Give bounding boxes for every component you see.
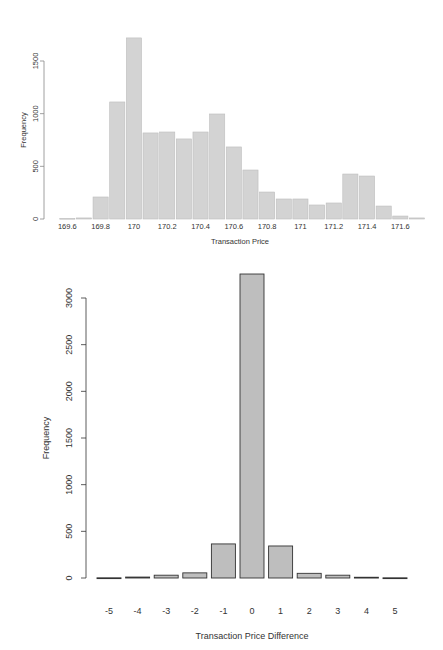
- histogram-bar: [143, 133, 158, 219]
- top-chart-svg: 050010001500169.6169.8170170.2170.4170.6…: [0, 0, 443, 250]
- x-tick-label: 170: [128, 222, 141, 231]
- histogram-bar: [310, 205, 325, 219]
- histogram-bar: [376, 206, 391, 219]
- bar: [211, 544, 235, 578]
- x-tick-label: 5: [392, 606, 397, 616]
- histogram-bar: [326, 203, 341, 219]
- y-tick-label: 500: [31, 160, 40, 173]
- y-tick-label: 1500: [31, 53, 40, 70]
- bar: [297, 573, 321, 578]
- x-tick-label: 2: [307, 606, 312, 616]
- bar: [240, 274, 264, 578]
- x-tick-label: 1: [278, 606, 283, 616]
- histogram-bar: [126, 38, 141, 219]
- x-tick-label: 170.6: [224, 222, 243, 231]
- x-tick-label: 3: [335, 606, 340, 616]
- x-tick-label: 169.8: [91, 222, 110, 231]
- y-tick-label: 0: [64, 575, 74, 580]
- x-tick-label: 171: [294, 222, 307, 231]
- bar: [326, 575, 350, 578]
- bar: [269, 546, 293, 578]
- histogram-bar: [409, 218, 424, 219]
- histogram-bar: [60, 219, 75, 220]
- histogram-bar: [93, 197, 108, 219]
- x-tick-label: 0: [249, 606, 254, 616]
- histogram-bar: [226, 147, 241, 219]
- y-axis-title: Frequency: [41, 416, 51, 459]
- histogram-bar: [243, 170, 258, 219]
- y-tick-label: 1500: [64, 428, 74, 448]
- x-tick-label: 170.8: [258, 222, 277, 231]
- histogram-bar: [276, 199, 291, 219]
- bar: [126, 577, 150, 578]
- y-tick-label: 2500: [64, 335, 74, 355]
- histogram-bar: [76, 218, 91, 219]
- y-tick-label: 2000: [64, 381, 74, 401]
- x-axis-title: Transaction Price Difference: [195, 631, 308, 641]
- bar: [97, 578, 121, 579]
- y-tick-label: 500: [64, 524, 74, 539]
- x-tick-label: -2: [191, 606, 199, 616]
- x-axis-title: Transaction Price: [211, 237, 269, 246]
- x-tick-label: 170.4: [191, 222, 210, 231]
- y-axis-title: Frequency: [19, 112, 28, 148]
- y-tick-label: 0: [31, 217, 40, 221]
- histogram-bar: [160, 132, 175, 219]
- histogram-bar: [210, 114, 225, 219]
- histogram-bar: [110, 102, 125, 219]
- histogram-bar: [260, 192, 275, 219]
- bar: [183, 573, 207, 578]
- x-tick-label: -4: [134, 606, 142, 616]
- x-tick-label: -1: [219, 606, 227, 616]
- bar: [354, 577, 378, 578]
- bar: [154, 575, 178, 578]
- bottom-chart-svg: 050010001500200025003000-5-4-3-2-1012345…: [0, 250, 443, 650]
- price-difference-barplot: 050010001500200025003000-5-4-3-2-1012345…: [0, 250, 443, 650]
- histogram-bar: [293, 199, 308, 219]
- x-tick-label: 171.4: [358, 222, 377, 231]
- histogram-bar: [393, 216, 408, 219]
- x-tick-label: 171.6: [391, 222, 410, 231]
- y-tick-label: 1000: [31, 105, 40, 122]
- bar: [383, 578, 407, 579]
- x-tick-label: 171.2: [324, 222, 343, 231]
- histogram-bar: [343, 174, 358, 219]
- x-tick-label: 169.6: [58, 222, 77, 231]
- x-tick-label: -5: [105, 606, 113, 616]
- histogram-bar: [193, 132, 208, 219]
- histogram-bar: [359, 176, 374, 219]
- y-tick-label: 1000: [64, 475, 74, 495]
- histogram-bar: [176, 139, 191, 219]
- transaction-price-histogram: 050010001500169.6169.8170170.2170.4170.6…: [0, 0, 443, 250]
- y-tick-label: 3000: [64, 288, 74, 308]
- x-tick-label: 4: [364, 606, 369, 616]
- x-tick-label: -3: [162, 606, 170, 616]
- x-tick-label: 170.2: [158, 222, 177, 231]
